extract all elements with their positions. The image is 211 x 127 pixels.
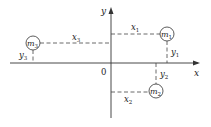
- mass-2-y-label: y2: [159, 69, 168, 80]
- mass-2-x-label: x2: [124, 94, 132, 105]
- coordinate-diagram: x y 0 m1 x1 y1 m2 x2 y2: [0, 0, 211, 127]
- x-axis-arrow-icon: [193, 61, 200, 66]
- y-axis-label: y: [100, 6, 107, 16]
- mass-2-group: m2 x2 y2: [111, 63, 168, 105]
- mass-3-y-label: y3: [18, 50, 28, 61]
- mass-1-group: m1 x1 y1: [111, 22, 179, 63]
- origin-label: 0: [101, 67, 106, 77]
- mass-1-y-label: y1: [170, 47, 179, 58]
- mass-3-x-label: x3: [72, 32, 81, 43]
- mass-3-group: m3 x3 y3: [18, 32, 111, 63]
- x-axis-label: x: [194, 68, 199, 78]
- mass-1-x-label: x1: [131, 22, 139, 33]
- y-axis: [109, 7, 114, 118]
- x-axis: [10, 61, 200, 66]
- y-axis-arrow-icon: [109, 7, 114, 14]
